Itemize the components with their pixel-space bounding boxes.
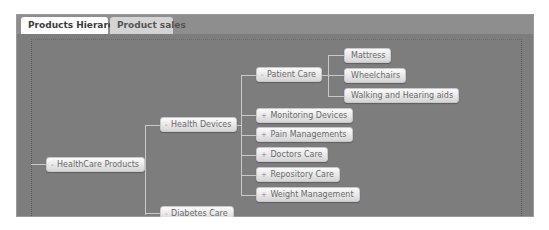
page-background	[0, 217, 549, 230]
connector	[241, 195, 256, 196]
expand-icon[interactable]: +	[261, 151, 267, 159]
connector	[145, 125, 146, 215]
tree-node-weight-management[interactable]: + Weight Management	[256, 187, 360, 202]
tree-node-doctors-care[interactable]: + Doctors Care	[256, 147, 328, 162]
collapse-icon[interactable]: -	[51, 161, 54, 169]
connector	[241, 155, 256, 156]
tree-node-mattress[interactable]: Mattress	[344, 48, 391, 63]
connector	[241, 115, 256, 116]
tree-node-healthcare-products[interactable]: - HealthCare Products	[46, 157, 145, 172]
collapse-icon[interactable]: -	[261, 71, 264, 79]
connector	[328, 55, 344, 56]
connector	[241, 175, 256, 176]
node-label: Monitoring Devices	[270, 111, 347, 120]
node-label: Repository Care	[270, 170, 334, 179]
node-label: Health Devices	[171, 120, 231, 129]
connector	[145, 125, 160, 126]
expand-icon[interactable]: +	[261, 171, 267, 179]
node-label: Pain Managements	[270, 130, 346, 139]
node-label: HealthCare Products	[57, 160, 139, 169]
tree-node-pain-managements[interactable]: + Pain Managements	[256, 127, 353, 142]
tab-product-sales[interactable]: Product sales	[110, 17, 173, 34]
node-label: Mattress	[351, 51, 385, 60]
tree-node-repository-care[interactable]: + Repository Care	[256, 167, 340, 182]
tree-node-monitoring-devices[interactable]: + Monitoring Devices	[256, 108, 353, 123]
expand-icon[interactable]: +	[261, 191, 267, 199]
tree-node-patient-care[interactable]: - Patient Care	[256, 67, 322, 82]
connector	[31, 164, 46, 165]
connector	[328, 96, 344, 97]
expand-icon[interactable]: +	[261, 131, 267, 139]
connector	[328, 75, 344, 76]
connector	[241, 135, 256, 136]
tab-strip: Products Hierarchy Product sales	[17, 15, 533, 34]
tree-node-wheelchairs[interactable]: Wheelchairs	[344, 68, 406, 83]
node-label: Walking and Hearing aids	[351, 91, 453, 100]
node-label: Patient Care	[267, 70, 316, 79]
tab-products-hierarchy[interactable]: Products Hierarchy	[21, 17, 108, 34]
tree-node-walking-and-hearing-aids[interactable]: Walking and Hearing aids	[344, 88, 459, 103]
connector	[241, 75, 256, 76]
connector	[145, 213, 160, 214]
tree-node-health-devices[interactable]: - Health Devices	[160, 117, 237, 132]
node-label: Wheelchairs	[351, 71, 400, 80]
node-label: Weight Management	[270, 190, 353, 199]
node-label: Doctors Care	[270, 150, 322, 159]
expand-icon[interactable]: +	[261, 112, 267, 120]
collapse-icon[interactable]: -	[165, 121, 168, 129]
